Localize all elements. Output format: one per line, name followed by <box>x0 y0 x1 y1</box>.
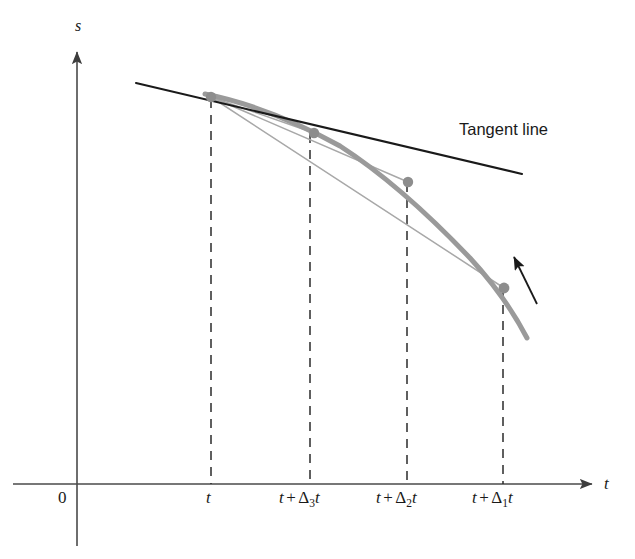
tick-subscript: 2 <box>406 497 412 509</box>
point-marker-p <box>206 92 216 102</box>
y-axis-label: s <box>75 18 81 34</box>
tick-label-t-delta2: t+Δ2t <box>376 489 417 506</box>
point-marker-q2 <box>403 177 413 187</box>
x-axis-label: t <box>604 475 609 492</box>
tick-label-t-base: t <box>206 488 211 507</box>
tick-delta-symbol: Δ <box>395 488 406 507</box>
tick-label-t-delta1: t+Δ1t <box>472 489 513 506</box>
tick-operator: + <box>477 488 492 507</box>
figure-canvas: s t 0 Tangent line t t+Δ3t t+Δ2t t+Δ1t <box>0 0 635 559</box>
tangent-line-label: Tangent line <box>459 121 548 138</box>
tick-tail: t <box>508 488 513 507</box>
diagram-svg <box>0 0 635 559</box>
tick-label-t: t <box>206 489 211 506</box>
tick-operator: + <box>381 488 396 507</box>
tick-label-t-delta3: t+Δ3t <box>279 489 320 506</box>
point-marker-q1 <box>499 283 510 294</box>
tick-operator: + <box>284 488 299 507</box>
direction-arrow-icon <box>514 257 537 304</box>
tick-tail: t <box>412 488 417 507</box>
tick-delta-symbol: Δ <box>491 488 502 507</box>
tick-subscript: 1 <box>502 497 508 509</box>
point-marker-q3 <box>309 128 319 138</box>
tick-subscript: 3 <box>309 497 315 509</box>
tick-tail: t <box>315 488 320 507</box>
tick-delta-symbol: Δ <box>298 488 309 507</box>
origin-label: 0 <box>58 489 67 506</box>
